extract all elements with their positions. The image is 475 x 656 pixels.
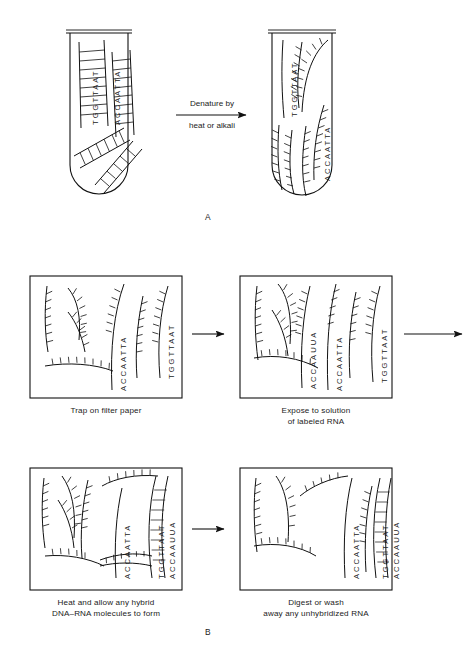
panel-label-b: B <box>198 627 218 637</box>
seq-step1-accaatta: ACCAATTA <box>119 336 128 391</box>
seq-tube-right-strand-2: ACCAATTA <box>323 126 332 181</box>
caption-step-2: Expose to solution of labeled RNA <box>240 406 392 427</box>
ss-strand-e <box>271 125 282 190</box>
caption-step-4: Digest or wash away any unhybridized RNA <box>232 598 400 619</box>
seq-step1-tggttaat: TGGTTAAT <box>167 324 176 379</box>
seq-step3-hybrid-rna-accaauua: ACCAAUUA <box>168 521 177 579</box>
figure-dna-rna-hybridization: TGGTTAAT ACCAATTA Denature by heat or al… <box>0 0 475 656</box>
ss-strand-f <box>284 130 294 194</box>
tube-left-native-dna <box>66 30 142 194</box>
seq-tube-left-top-strand: TGGTTAAT <box>91 70 100 125</box>
seq-step2-accaauua: ACCAAUUA <box>309 331 318 389</box>
hybrid-duplex-bottom-left <box>45 548 152 566</box>
seq-step2-accaatta: ACCAATTA <box>335 336 344 391</box>
caption-step-3: Heat and allow any hybrid DNA–RNA molecu… <box>22 598 190 619</box>
seq-tube-left-bottom-strand: ACCAATTA <box>113 70 122 125</box>
seq-step4-hybrid-dna-tggttaat: TGGTTAAT <box>381 524 390 579</box>
panel-label-a: A <box>198 212 218 222</box>
ss-strand-g <box>302 126 310 196</box>
seq-step3-accaatta: ACCAATTA <box>123 524 132 579</box>
duplex-diagonal-bottom <box>95 141 142 193</box>
seq-step3-hybrid-dna-tggttaat: TGGTTAAT <box>157 524 166 579</box>
panel-b-step-1-box <box>30 276 182 398</box>
duplex-diagonal-lower <box>74 128 130 168</box>
denature-arrow-label-line2: heat or alkali <box>176 120 248 131</box>
seq-tube-right-strand-1: TGGTTAAT <box>290 62 299 117</box>
panel-b-step-4-box <box>240 468 392 590</box>
denature-arrow-label-line1: Denature by <box>176 98 248 109</box>
seq-step4-hybrid-rna-accaauua: ACCAAUUA <box>392 521 401 579</box>
seq-step4-accaatta: ACCAATTA <box>352 524 361 579</box>
caption-step-1: Trap on filter paper <box>30 406 182 417</box>
seq-step2-tggttaat: TGGTTAAT <box>380 328 389 383</box>
